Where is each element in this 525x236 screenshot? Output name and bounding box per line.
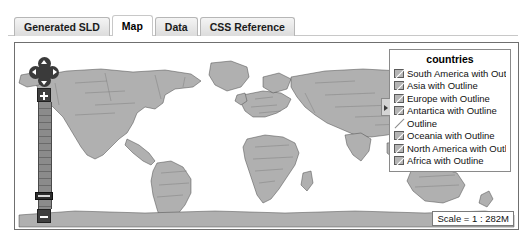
legend-swatch-icon: [394, 156, 404, 165]
legend-title: countries: [394, 53, 506, 65]
legend-item[interactable]: South America with Outline: [394, 67, 506, 80]
map-navigation-widget[interactable]: [29, 57, 59, 87]
legend-item-label: South America with Outline: [407, 68, 506, 79]
legend-swatch-icon: [394, 94, 404, 103]
legend-swatch-icon: [394, 81, 404, 90]
legend-item-label: Europe with Outline: [407, 93, 490, 104]
page-top-strip: [0, 0, 525, 12]
sld-editor-map-view: Generated SLD Map Data CSS Reference: [0, 0, 525, 236]
zoom-out-icon[interactable]: [37, 209, 51, 223]
map-scale-indicator: Scale = 1 : 282M: [432, 211, 514, 226]
legend-item[interactable]: North America with Outline: [394, 142, 506, 155]
legend-item[interactable]: Antartica with Outline: [394, 105, 506, 118]
legend-swatch-icon: [394, 131, 404, 140]
legend-swatch-icon: [394, 69, 404, 78]
legend-item[interactable]: Outline: [394, 117, 506, 130]
pan-control-cluster[interactable]: [29, 57, 59, 87]
map-panel[interactable]: countries South America with Outline Asi…: [14, 42, 519, 230]
legend-item[interactable]: Europe with Outline: [394, 92, 506, 105]
zoom-slider-handle[interactable]: [35, 192, 53, 200]
tab-generated-sld[interactable]: Generated SLD: [14, 17, 110, 36]
legend-item[interactable]: Oceania with Outline: [394, 130, 506, 143]
zoom-in-icon[interactable]: [37, 88, 51, 102]
legend-item-label: Asia with Outline: [407, 80, 478, 91]
legend-collapse-handle-icon[interactable]: [381, 98, 390, 116]
legend-item[interactable]: Asia with Outline: [394, 80, 506, 93]
map-legend[interactable]: countries South America with Outline Asi…: [389, 49, 511, 172]
tab-bar: Generated SLD Map Data CSS Reference: [8, 12, 520, 36]
tab-css-reference[interactable]: CSS Reference: [200, 17, 295, 36]
tab-data[interactable]: Data: [155, 17, 198, 36]
legend-item-label: Africa with Outline: [407, 155, 484, 166]
pan-center-button[interactable]: [39, 67, 50, 78]
legend-item-label: Outline: [407, 118, 437, 129]
legend-swatch-icon: [394, 144, 404, 153]
legend-item[interactable]: Africa with Outline: [394, 155, 506, 168]
legend-item-label: Oceania with Outline: [407, 130, 495, 141]
tab-list: Generated SLD Map Data CSS Reference: [14, 12, 297, 36]
legend-item-label: North America with Outline: [407, 143, 506, 154]
legend-line-swatch-icon: [394, 119, 404, 128]
legend-item-label: Antartica with Outline: [407, 105, 497, 116]
tab-map[interactable]: Map: [112, 15, 153, 36]
legend-swatch-icon: [394, 106, 404, 115]
